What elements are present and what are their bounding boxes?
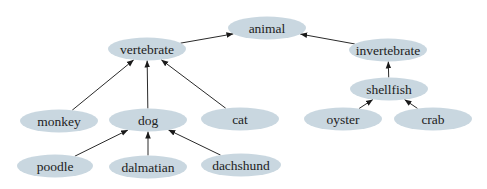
node-oyster[interactable]: oyster	[304, 108, 382, 131]
node-label: dalmatian	[121, 160, 174, 175]
edge-invertebrate-to-animal	[300, 34, 355, 44]
edge-monkey-to-vertebrate	[72, 60, 134, 110]
edge-vertebrate-to-animal	[181, 34, 234, 43]
node-label: animal	[249, 21, 286, 36]
node-cat[interactable]: cat	[201, 108, 279, 131]
node-label: dachshund	[212, 158, 270, 173]
node-crab[interactable]: crab	[394, 108, 472, 131]
edge-dachshund-to-dog	[168, 130, 220, 155]
node-dog[interactable]: dog	[109, 109, 187, 132]
node-dachshund[interactable]: dachshund	[201, 154, 281, 177]
node-label: dog	[138, 113, 159, 128]
edge-crab-to-shellfish	[404, 100, 417, 109]
node-label: cat	[232, 112, 248, 127]
node-animal[interactable]: animal	[228, 17, 306, 40]
node-poodle[interactable]: poodle	[17, 155, 93, 178]
node-label: vertebrate	[120, 42, 174, 57]
node-vertebrate[interactable]: vertebrate	[108, 38, 186, 61]
node-label: oyster	[327, 112, 360, 127]
node-dalmatian[interactable]: dalmatian	[109, 156, 187, 179]
edge-poodle-to-dog	[75, 130, 128, 156]
edge-cat-to-vertebrate	[161, 60, 226, 109]
edge-oyster-to-shellfish	[359, 99, 373, 108]
node-invertebrate[interactable]: invertebrate	[349, 39, 427, 62]
node-label: shellfish	[366, 82, 412, 97]
edge-dog-to-vertebrate	[147, 60, 148, 108]
node-label: crab	[421, 112, 444, 127]
node-label: poodle	[37, 159, 74, 174]
node-monkey[interactable]: monkey	[20, 110, 98, 133]
node-label: monkey	[37, 114, 81, 129]
node-label: invertebrate	[356, 43, 420, 58]
taxonomy-diagram: animal vertebrate invertebrate shellfish…	[0, 0, 487, 189]
nodes-layer: animal vertebrate invertebrate shellfish…	[17, 17, 472, 179]
node-shellfish[interactable]: shellfish	[350, 78, 428, 101]
